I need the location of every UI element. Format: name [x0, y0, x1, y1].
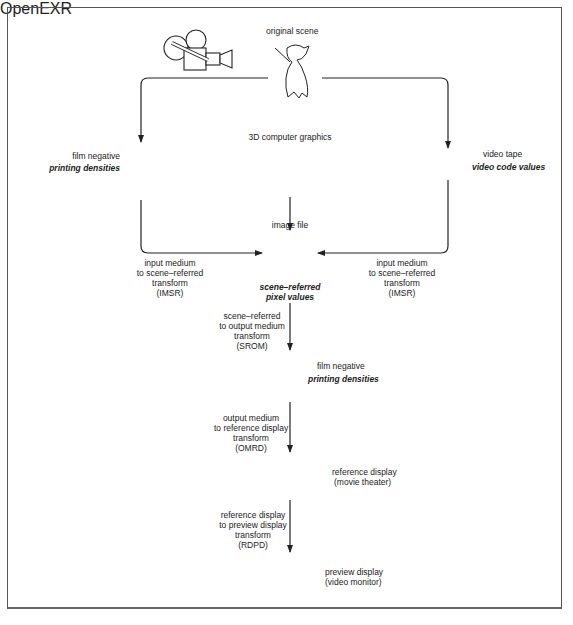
original-scene-icon	[275, 45, 309, 98]
omrd-line-3: transform	[214, 433, 288, 443]
srom-line-4: (SROM)	[218, 341, 286, 351]
edge-film-negative-to-image-file	[141, 200, 262, 253]
imsr-left-line-4: (IMSR)	[120, 288, 220, 298]
image-file-sublabel-2: pixel values	[250, 292, 330, 302]
imsr-left-line-1: input medium	[120, 258, 220, 268]
rdpd-line-3: transform	[218, 530, 288, 540]
film-negative-top-sublabel: printing densities	[30, 163, 120, 173]
imsr-right-line-1: input medium	[352, 258, 452, 268]
edges	[141, 78, 448, 552]
omrd-line-2: to reference display	[214, 423, 288, 433]
rdpd-label: reference display to preview display tra…	[218, 510, 288, 550]
imsr-left-line-3: transform	[120, 278, 220, 288]
film-negative-mid-label: film negative	[317, 361, 365, 371]
srom-line-2: to output medium	[218, 321, 286, 331]
preview-display-label-2: (video monitor)	[325, 577, 382, 587]
omrd-line-4: (OMRD)	[214, 443, 288, 453]
film-negative-mid-sublabel: printing densities	[308, 374, 379, 384]
preview-display-label-1: preview display	[325, 567, 383, 577]
srom-label: scene–referred to output medium transfor…	[218, 311, 286, 351]
video-tape-label: video tape	[483, 149, 522, 159]
rdpd-line-2: to preview display	[218, 520, 288, 530]
reference-display-label-2: (movie theater)	[334, 477, 391, 487]
film-negative-top-label: film negative	[30, 151, 120, 161]
imsr-left-line-2: to scene–referred	[120, 268, 220, 278]
imsr-right-label: input medium to scene–referred transform…	[352, 258, 452, 298]
imsr-right-line-2: to scene–referred	[352, 268, 452, 278]
srom-line-3: transform	[218, 331, 286, 341]
omrd-line-1: output medium	[214, 413, 288, 423]
film-camera-icon	[164, 30, 232, 70]
imsr-right-line-4: (IMSR)	[352, 288, 452, 298]
original-scene-label: original scene	[266, 26, 316, 36]
imsr-left-label: input medium to scene–referred transform…	[120, 258, 220, 298]
edge-scene-to-video-tape	[322, 78, 448, 148]
rdpd-line-4: (RDPD)	[218, 540, 288, 550]
edge-video-tape-to-image-file	[318, 180, 448, 253]
cg-label: 3D computer graphics	[240, 132, 340, 142]
image-file-label: image file	[260, 220, 320, 230]
imsr-right-line-3: transform	[352, 278, 452, 288]
omrd-label: output medium to reference display trans…	[214, 413, 288, 453]
reference-display-label-1: reference display	[332, 467, 397, 477]
video-tape-sublabel: video code values	[472, 162, 545, 172]
srom-line-1: scene–referred	[218, 311, 286, 321]
image-file-sublabel-1: scene–referred	[250, 282, 330, 292]
rdpd-line-1: reference display	[218, 510, 288, 520]
